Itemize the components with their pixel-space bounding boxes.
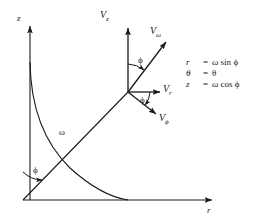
eq-0-coef: ω (212, 57, 218, 67)
v-r-sub: r (169, 89, 172, 97)
omega-line-label: ω (59, 128, 65, 137)
v-omega-label: Vω (150, 26, 161, 39)
v-z-label: Vz (100, 10, 109, 23)
v-omega-sub: ω (156, 31, 161, 39)
eq-2-operator: = (199, 79, 212, 90)
v-phi-sub: ϕ (165, 118, 169, 126)
omega-radius-line (23, 92, 128, 200)
equation-row: θ = θ (186, 68, 240, 79)
phi-label-corner: ϕ (33, 166, 38, 175)
eq-2-var: ϕ (235, 79, 240, 89)
eq-2-fn: cos (221, 79, 233, 89)
equation-row: z = ω cos ϕ (186, 79, 240, 90)
eq-1-coef: θ (212, 68, 216, 78)
eq-0-rhs: ω sin ϕ (212, 57, 238, 68)
equation-block: r = ω sin ϕ θ = θ z = ω cos ϕ (186, 57, 240, 90)
v-z-sub: z (106, 15, 109, 23)
eq-2-rhs: ω cos ϕ (212, 79, 240, 90)
eq-0-var: ϕ (233, 57, 238, 67)
eq-0-lhs: r (186, 57, 199, 68)
eq-1-operator: = (199, 68, 212, 79)
equation-row: r = ω sin ϕ (186, 57, 240, 68)
v-phi-label: Vϕ (159, 113, 169, 126)
v-omega-arrow (128, 42, 166, 92)
v-r-label: Vr (163, 84, 172, 97)
eq-2-lhs: z (186, 79, 199, 90)
vector-diagram (0, 0, 256, 223)
phi-angle-arc-lower (145, 92, 150, 105)
quarter-circle-arc (30, 62, 128, 200)
eq-0-operator: = (199, 57, 212, 68)
eq-1-lhs: θ (186, 68, 199, 79)
phi-label-upper: ϕ (138, 56, 143, 65)
eq-0-fn: sin (221, 57, 232, 67)
eq-1-rhs: θ (212, 68, 216, 79)
phi-label-lower: ϕ (140, 96, 145, 105)
z-axis-label: z (17, 14, 21, 23)
figure-canvas: z r ω Vz Vω Vr Vϕ ϕ ϕ ϕ r = ω sin ϕ θ = … (0, 0, 256, 223)
eq-2-coef: ω (212, 79, 218, 89)
r-axis-label: r (207, 206, 211, 215)
